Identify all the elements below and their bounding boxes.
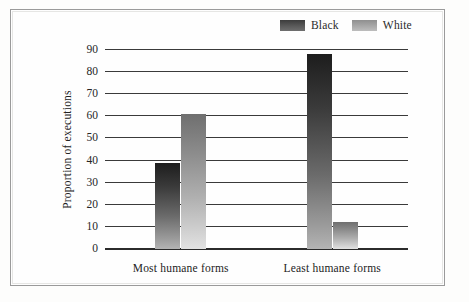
y-axis-tick-label: 30 bbox=[87, 176, 99, 188]
x-axis-line: 0 bbox=[105, 248, 408, 249]
legend-swatch-black-icon bbox=[280, 20, 305, 31]
gridline: 40 bbox=[105, 160, 408, 161]
legend-entry-black: Black bbox=[280, 19, 339, 31]
gridline: 30 bbox=[105, 182, 408, 183]
y-axis-tick-label: 70 bbox=[87, 87, 99, 99]
x-axis-tick-label: Least humane forms bbox=[284, 262, 382, 274]
gridline: 10 bbox=[105, 226, 408, 227]
chart-figure: Black White Proportion of executions 908… bbox=[0, 0, 469, 302]
bar-black-most-humane-forms bbox=[155, 163, 180, 249]
gridline: 80 bbox=[105, 71, 408, 72]
gridline: 70 bbox=[105, 93, 408, 94]
x-axis-tick-label: Most humane forms bbox=[133, 262, 229, 274]
bar-white-most-humane-forms bbox=[181, 114, 206, 249]
legend-label-white: White bbox=[383, 19, 412, 31]
gridline: 50 bbox=[105, 137, 408, 138]
y-axis-tick-label: 80 bbox=[87, 65, 99, 77]
y-axis-tick-label: 40 bbox=[87, 154, 99, 166]
bar-black-least-humane-forms bbox=[307, 54, 332, 249]
gridline: 90 bbox=[105, 49, 408, 50]
y-axis-tick-label: 50 bbox=[87, 131, 99, 143]
gridline: 20 bbox=[105, 204, 408, 205]
legend-label-black: Black bbox=[311, 19, 339, 31]
bar-white-least-humane-forms bbox=[333, 222, 358, 249]
y-axis-title: Proportion of executions bbox=[60, 50, 74, 249]
y-axis-tick-label: 60 bbox=[87, 109, 99, 121]
legend-entry-white: White bbox=[352, 19, 412, 31]
y-axis-tick-label: 10 bbox=[87, 220, 99, 232]
chart-legend: Black White bbox=[280, 19, 412, 31]
plot-area: 9080706050403020100Most humane formsLeas… bbox=[105, 50, 408, 249]
gridline: 60 bbox=[105, 115, 408, 116]
y-axis-tick-label: 20 bbox=[87, 198, 99, 210]
y-axis-tick-label: 0 bbox=[92, 242, 98, 254]
legend-swatch-white-icon bbox=[352, 20, 377, 31]
y-axis-tick-label: 90 bbox=[87, 43, 99, 55]
